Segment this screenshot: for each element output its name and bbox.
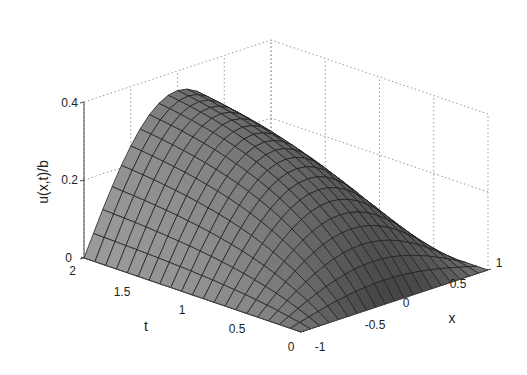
t-tick-0.5: 0.5: [229, 322, 246, 336]
surface-mesh: [84, 89, 488, 332]
x-tick-0.5: 0.5: [450, 277, 467, 291]
t-axis-label: t: [144, 318, 148, 334]
x-tick-0: 0: [403, 296, 410, 310]
t-tick-0: 0: [288, 340, 295, 354]
z-tick-0: 0: [65, 251, 72, 265]
t-tick-1.5: 1.5: [114, 285, 131, 299]
z-axis-label: u(x,t)/b: [35, 160, 51, 204]
t-tick-2: 2: [69, 264, 76, 278]
z-tick-0.4: 0.4: [61, 96, 78, 110]
x-tick--0.5: -0.5: [365, 318, 386, 332]
x-tick--1: -1: [315, 340, 326, 354]
z-tick-0.2: 0.2: [61, 173, 78, 187]
t-tick-1: 1: [179, 303, 186, 317]
x-tick-1: 1: [496, 256, 503, 270]
surface-plot: 0 0.2 0.4 2 1.5 1 0.5 0 -1 -0.5 0 0.5 1 …: [0, 0, 527, 375]
x-axis-label: x: [449, 310, 456, 326]
